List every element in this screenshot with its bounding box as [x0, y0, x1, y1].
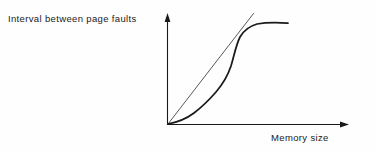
- y-axis-label: Interval between page faults: [8, 14, 137, 24]
- page-fault-interval-curve: [168, 23, 288, 124]
- tangent-line: [168, 14, 254, 125]
- arrow-right-icon: [340, 122, 349, 128]
- x-axis-label: Memory size: [271, 133, 329, 143]
- arrow-up-icon: [165, 13, 171, 22]
- figure-canvas: Interval between page faults Memory size: [0, 0, 375, 152]
